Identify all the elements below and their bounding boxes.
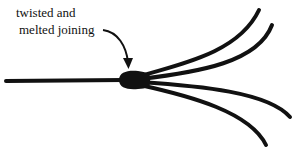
joint-blob bbox=[119, 71, 150, 89]
pointer-arrow bbox=[103, 30, 133, 69]
single-wire bbox=[6, 80, 124, 81]
wire-joint-diagram bbox=[0, 0, 299, 151]
strand-3 bbox=[140, 82, 290, 117]
strand-1 bbox=[140, 10, 259, 76]
